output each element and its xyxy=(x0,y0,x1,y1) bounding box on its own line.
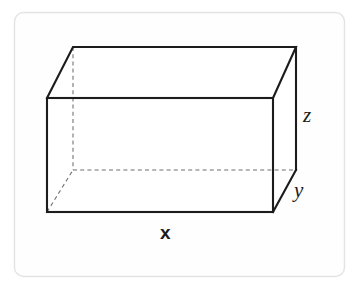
dimension-label-z: z xyxy=(303,105,311,126)
dimension-label-x: x xyxy=(160,223,171,242)
dimension-label-y: y xyxy=(294,180,303,201)
top-face xyxy=(47,47,296,98)
figure-root: x z y xyxy=(0,0,360,290)
prism-diagram-svg xyxy=(0,0,360,290)
front-face xyxy=(47,98,273,212)
